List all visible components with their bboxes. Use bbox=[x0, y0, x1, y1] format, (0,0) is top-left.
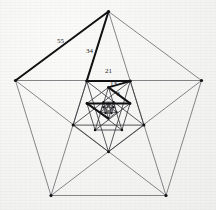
vertex-dot-3-left bbox=[99, 111, 101, 113]
fibonacci-label-8: 8 bbox=[117, 92, 120, 98]
vertex-dot-2-right bbox=[129, 102, 132, 105]
vertex-dot-4-right bbox=[113, 106, 115, 108]
pentagon-side-0-3 bbox=[16, 81, 52, 196]
vertex-dot-1-bottom bbox=[107, 150, 110, 153]
vertex-dot-3-right bbox=[116, 111, 118, 113]
pentagon-side-0-1 bbox=[166, 81, 202, 196]
vertex-dot-0-right bbox=[200, 79, 203, 82]
vertex-dot-1-upper-right bbox=[129, 80, 132, 83]
vertex-dot-4-top bbox=[108, 103, 110, 105]
vertex-dot-0-bottom-right bbox=[164, 194, 167, 197]
pentagram-canvas bbox=[0, 0, 216, 210]
vertex-dot-3-bottom bbox=[108, 118, 110, 120]
vertex-dot-2-bottom-right bbox=[121, 129, 124, 132]
vertex-dot-4-bottom-right bbox=[111, 112, 113, 114]
vertex-dot-0-left bbox=[14, 79, 17, 82]
vertex-dot-4-bottom-left bbox=[104, 112, 106, 114]
fibonacci-label-13: 13 bbox=[110, 81, 117, 88]
vertex-dot-2-left bbox=[86, 102, 89, 105]
fibonacci-label-55: 55 bbox=[57, 38, 64, 45]
vertex-dot-4-left bbox=[103, 106, 105, 108]
vertex-dot-0-bottom-left bbox=[49, 194, 52, 197]
pentagon-side-1-0 bbox=[73, 125, 108, 152]
fibonacci-label-5: 5 bbox=[113, 101, 115, 106]
fibonacci-label-34: 34 bbox=[86, 48, 93, 55]
vertex-dot-layer bbox=[14, 10, 203, 197]
vertex-dot-1-left bbox=[72, 124, 75, 127]
vertex-dot-1-upper-left bbox=[85, 80, 88, 83]
pentagon-side-1-4 bbox=[109, 125, 144, 152]
pentagon-side-1-3 bbox=[130, 81, 144, 125]
pentagon-side-0-0 bbox=[109, 12, 202, 81]
vertex-dot-1-right bbox=[142, 124, 145, 127]
vertex-dot-3-upper-left bbox=[102, 101, 104, 103]
fibonacci-label-21: 21 bbox=[105, 68, 112, 75]
pentagon-side-1-1 bbox=[73, 81, 87, 125]
fibonacci-label-3: 3 bbox=[109, 108, 111, 113]
bold-segment-55 bbox=[16, 12, 109, 81]
pentagon-side-2-1 bbox=[122, 103, 130, 130]
vertex-dot-0-top bbox=[107, 10, 110, 13]
pentagram-figure: 55342113853 bbox=[0, 0, 216, 210]
vertex-dot-2-bottom-left bbox=[94, 129, 97, 132]
